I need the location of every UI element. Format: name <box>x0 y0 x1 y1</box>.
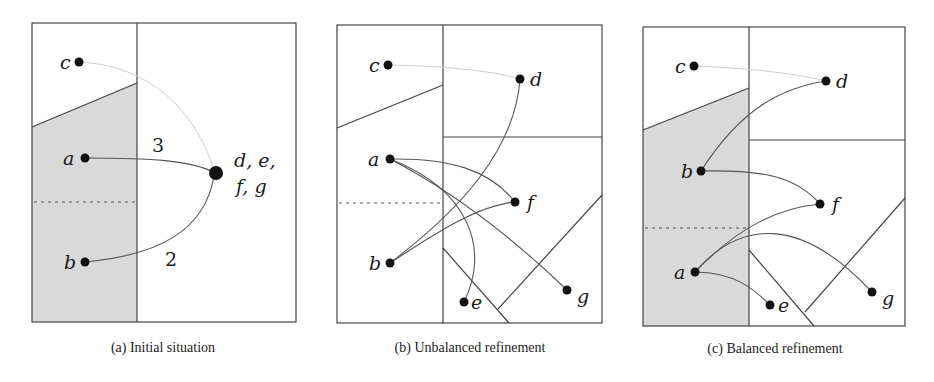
label-a: a <box>674 261 685 283</box>
label-c: c <box>369 54 380 76</box>
node-a <box>81 154 90 163</box>
node-g <box>563 286 572 295</box>
node-merged <box>209 166 223 180</box>
label-g: g <box>577 285 589 307</box>
label-a: a <box>63 147 74 169</box>
edge-c-d <box>388 65 520 79</box>
node-e <box>766 301 775 310</box>
panel-a: c a b d, e, f, g 3 2 (a) Initial situati… <box>32 23 296 356</box>
panel-b: c d a f b e g (b) Unbalanced refinement <box>337 25 602 356</box>
label-f: f <box>525 191 537 213</box>
label-b: b <box>64 251 76 273</box>
label-merged-1: d, e, <box>234 149 276 171</box>
node-d <box>516 75 525 84</box>
caption-c: (c) Balanced refinement <box>707 341 842 357</box>
label-b: b <box>369 252 381 274</box>
node-a <box>691 268 700 277</box>
label-c: c <box>675 55 686 77</box>
node-a <box>386 155 395 164</box>
node-c <box>75 58 84 67</box>
label-e: e <box>778 294 789 316</box>
node-c <box>690 62 699 71</box>
label-g: g <box>882 287 894 309</box>
node-d <box>822 77 831 86</box>
node-c <box>384 61 393 70</box>
edge-a-f <box>390 159 515 202</box>
label-merged-2: f, g <box>234 175 267 197</box>
node-b <box>81 258 90 267</box>
label-c: c <box>60 51 71 73</box>
node-f <box>816 200 825 209</box>
label-b: b <box>681 160 693 182</box>
node-f <box>511 198 520 207</box>
panel-c: c d b f a e g (c) Balanced refinement <box>643 27 905 357</box>
weight-3: 3 <box>152 134 164 156</box>
node-b <box>386 259 395 268</box>
label-d: d <box>530 68 542 90</box>
node-e <box>460 298 469 307</box>
label-a: a <box>368 148 379 170</box>
figure: c a b d, e, f, g 3 2 (a) Initial situati… <box>0 0 934 382</box>
caption-b: (b) Unbalanced refinement <box>395 340 546 356</box>
node-b <box>697 167 706 176</box>
diagonal-boundary <box>337 85 443 128</box>
label-f: f <box>830 193 842 215</box>
node-g <box>868 288 877 297</box>
edge-a-e <box>390 159 475 302</box>
edge-b-d <box>390 79 520 263</box>
weight-2: 2 <box>165 248 177 270</box>
edge-c-d <box>694 66 826 81</box>
label-e: e <box>471 291 482 313</box>
label-d: d <box>836 70 848 92</box>
caption-a: (a) Initial situation <box>111 340 215 356</box>
edge-b-f <box>390 202 515 263</box>
